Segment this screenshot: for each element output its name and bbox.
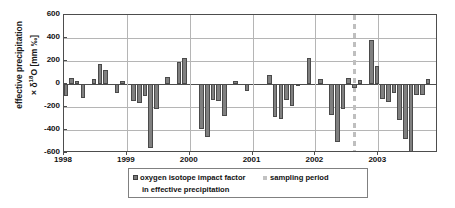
x-tick-label: 2001 xyxy=(232,155,272,164)
chart-legend: oxygen isotope impact factor in effectiv… xyxy=(128,168,368,198)
bar xyxy=(103,70,108,84)
x-tick-mark xyxy=(63,152,64,155)
y-tick-mark xyxy=(63,129,67,130)
bar xyxy=(177,62,182,84)
vertical-gridline xyxy=(315,15,316,151)
bar xyxy=(81,84,86,98)
bar xyxy=(290,84,295,106)
bar xyxy=(420,84,425,95)
horizontal-gridline xyxy=(64,38,436,39)
y-tick-label: 0 xyxy=(34,79,60,87)
legend-swatch-bar-icon xyxy=(133,175,138,180)
bar xyxy=(267,75,272,84)
bar xyxy=(120,81,125,84)
x-tick-label: 2000 xyxy=(169,155,209,164)
bar xyxy=(358,80,363,84)
y-axis-label-line1: effective precipitation xyxy=(14,21,24,109)
bar xyxy=(64,84,69,96)
bar xyxy=(346,78,351,84)
bar xyxy=(143,84,148,96)
legend-label-sampling-period: sampling period xyxy=(270,173,329,182)
bar xyxy=(216,84,221,101)
bar xyxy=(182,58,187,84)
bar xyxy=(341,84,346,109)
x-tick-label: 1998 xyxy=(43,155,83,164)
bar xyxy=(426,79,431,84)
bar xyxy=(375,66,380,84)
bar xyxy=(329,84,334,115)
x-tick-mark xyxy=(314,152,315,155)
plot-area xyxy=(63,14,437,152)
bar xyxy=(154,84,159,109)
bar xyxy=(245,84,250,91)
bar xyxy=(335,84,340,142)
bar xyxy=(199,84,204,129)
legend-item-sampling-period: sampling period xyxy=(263,173,329,182)
x-tick-label: 1999 xyxy=(106,155,146,164)
bar xyxy=(414,84,419,95)
y-tick-label: -400 xyxy=(34,125,60,133)
vertical-gridline xyxy=(253,15,254,151)
legend-label-impact-factor-line2: in effective precipitation xyxy=(142,185,229,194)
bar xyxy=(318,79,323,84)
chart-figure: effective precipitation × δ18O [mm ‰] 60… xyxy=(0,0,455,208)
x-tick-label: 2002 xyxy=(294,155,334,164)
bar xyxy=(211,84,216,100)
x-tick-label: 2003 xyxy=(357,155,397,164)
bar xyxy=(369,40,374,84)
legend-item-impact-factor-line2: in effective precipitation xyxy=(142,185,229,194)
y-tick-label: 200 xyxy=(34,56,60,64)
x-tick-mark xyxy=(126,152,127,155)
bar xyxy=(284,84,289,100)
bar xyxy=(403,84,408,139)
bar xyxy=(205,84,210,137)
bar xyxy=(137,84,142,103)
vertical-gridline xyxy=(127,15,128,151)
bar xyxy=(222,84,227,116)
bar xyxy=(352,84,357,88)
y-tick-mark xyxy=(63,106,67,107)
y-tick-label: 600 xyxy=(34,10,60,18)
y-tick-label: 400 xyxy=(34,33,60,41)
bar xyxy=(380,84,385,99)
x-tick-mark xyxy=(252,152,253,155)
horizontal-gridline xyxy=(64,130,436,131)
vertical-gridline xyxy=(190,15,191,151)
bar xyxy=(392,84,397,93)
bar xyxy=(409,84,414,152)
bar xyxy=(165,77,170,84)
x-tick-mark xyxy=(189,152,190,155)
bar xyxy=(397,84,402,120)
bar xyxy=(92,79,97,84)
y-tick-mark xyxy=(63,60,67,61)
bar xyxy=(296,84,301,86)
sampling-period-line xyxy=(353,15,356,151)
y-axis-ticks: 6004002000-200-400-600 xyxy=(30,0,60,208)
y-tick-mark xyxy=(63,83,67,84)
bar xyxy=(131,84,136,101)
bar xyxy=(279,84,284,119)
legend-item-impact-factor: oxygen isotope impact factor xyxy=(133,173,246,182)
bar xyxy=(69,78,74,84)
y-tick-mark xyxy=(63,37,67,38)
bar xyxy=(307,58,312,84)
bar xyxy=(75,81,80,84)
bar xyxy=(115,84,120,93)
horizontal-gridline xyxy=(64,107,436,108)
bar xyxy=(98,64,103,84)
horizontal-gridline xyxy=(64,61,436,62)
y-tick-mark xyxy=(63,14,67,15)
y-tick-label: -200 xyxy=(34,102,60,110)
legend-swatch-sampling-icon xyxy=(263,176,267,180)
legend-label-impact-factor: oxygen isotope impact factor xyxy=(140,173,246,182)
bar xyxy=(148,84,153,148)
bar xyxy=(273,84,278,117)
x-tick-mark xyxy=(377,152,378,155)
bar xyxy=(386,84,391,102)
bar xyxy=(233,81,238,84)
